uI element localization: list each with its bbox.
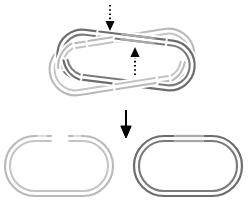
light-open-ring-panel xyxy=(5,136,113,196)
light-ring-upper-left-overpass xyxy=(88,37,112,46)
dark-closed-ring-panel xyxy=(134,136,242,196)
figure-root: DNA catenane decatenation schematic xyxy=(0,0,251,205)
dotted-arrow-down xyxy=(105,5,114,31)
interlinked-rings-panel xyxy=(46,5,198,99)
solid-arrow-down xyxy=(121,110,131,138)
catenane-diagram-svg xyxy=(0,0,251,205)
dotted-arrow-up xyxy=(130,47,139,75)
